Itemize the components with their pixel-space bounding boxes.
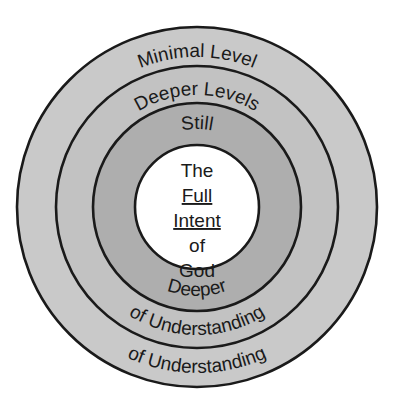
center-line-intent: Intent bbox=[173, 210, 221, 231]
concentric-rings-diagram: Minimal Level Deeper Levels Still Deeper… bbox=[0, 0, 394, 419]
center-line-full: Full bbox=[182, 185, 213, 206]
center-line-of: of bbox=[189, 235, 206, 256]
center-line-god: God bbox=[179, 260, 215, 281]
center-line-the: The bbox=[181, 160, 214, 181]
rings-svg: Minimal Level Deeper Levels Still Deeper… bbox=[0, 0, 394, 419]
